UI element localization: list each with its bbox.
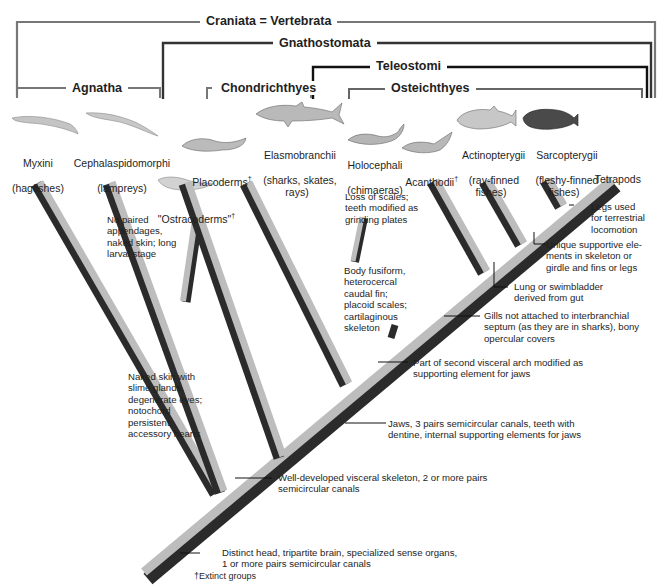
taxon-tetrapods: Tetrapods — [586, 161, 644, 185]
extinct-dagger: † — [248, 175, 252, 182]
clade-label-osteichthyes: Osteichthyes — [385, 81, 476, 95]
chimaera-icon — [348, 124, 404, 144]
character-craniata: Distinct head, tripartite brain, special… — [222, 547, 457, 570]
taxon-name: Sarcopterygii — [536, 149, 597, 161]
character-agnatha-lampreys: No paired appendages, naked skin; long l… — [107, 214, 176, 260]
taxon-name: Elasmobranchii — [264, 149, 336, 161]
character-hagfish: Naked skin with slime glands, degenerate… — [128, 371, 202, 439]
taxon-common-name: (sharks, skates, rays) — [263, 174, 337, 198]
taxon-placoderms: Placoderms† — [180, 161, 258, 188]
hagfish-icon — [12, 116, 78, 134]
taxon-name: Tetrapods — [595, 173, 641, 185]
taxon-common-name: (lampreys) — [97, 182, 147, 194]
taxon-myxini: Myxini (hagfishes) — [2, 145, 68, 194]
branch-elasmobranchii — [249, 182, 349, 383]
taxon-elasmobranchii: Elasmobranchii (sharks, skates, rays) — [257, 137, 337, 198]
character-chimaera: Loss of scales; teeth modified as grindi… — [345, 191, 418, 225]
character-teleostomi: Gills not attached to interbranchial sep… — [484, 310, 639, 344]
bracket-teleostomi — [313, 67, 647, 99]
character-osteichthyes: Lung or swimbladder derived from gut — [514, 281, 603, 304]
acanthodian-icon — [402, 132, 452, 153]
ray-finned-fish-icon — [457, 106, 516, 129]
lamprey-icon — [86, 113, 158, 136]
taxon-name: Holocephali — [347, 159, 402, 171]
taxon-cephalaspidomorphi: Cephalaspidomorphi (lampreys) — [66, 145, 172, 194]
clade-label-gnathostomata: Gnathostomata — [273, 36, 377, 50]
taxon-name: Placoderms — [192, 176, 247, 188]
placoderm-icon — [182, 138, 246, 151]
character-tetrapods: Legs used for terrestrial locomotion — [591, 201, 645, 235]
taxon-common-name: (ray-finned fishes) — [469, 174, 519, 198]
taxon-name: Actinopterygii — [462, 149, 525, 161]
character-acanthodii-node: Part of second visceral arch modified as… — [413, 357, 583, 380]
character-gnathostomata: Jaws, 3 pairs semicircular canals, teeth… — [388, 418, 581, 441]
character-chondrichthyes: Body fusiform, heterocercal caudal fin; … — [344, 265, 407, 333]
branch-elasmobranchii-shadow — [245, 184, 345, 385]
clade-label-teleostomi: Teleostomi — [370, 59, 447, 73]
clade-label-chondrichthyes: Chondrichthyes — [215, 81, 322, 95]
taxon-holocephali: Holocephali (chimaeras) — [340, 147, 404, 196]
shark-icon — [256, 102, 344, 127]
taxon-acanthodii: Acanthodii† — [399, 161, 459, 188]
footnote-extinct-groups: †Extinct groups — [194, 571, 256, 582]
clade-label-craniata: Craniata = Vertebrata — [200, 14, 337, 28]
character-vertebrata-node: Well-developed visceral skeleton, 2 or m… — [278, 472, 487, 495]
clade-label-agnatha: Agnatha — [66, 81, 128, 95]
character-sarcopterygii: Unique supportive ele- ments in skeleton… — [546, 239, 642, 273]
extinct-dagger: † — [231, 212, 235, 219]
taxon-name: Acanthodii — [405, 176, 454, 188]
taxon-name: Cephalaspidomorphi — [74, 157, 170, 169]
taxon-actinopterygii: Actinopterygii (ray-finned fishes) — [453, 137, 529, 198]
taxon-common-name: (hagfishes) — [12, 182, 64, 194]
coelacanth-icon — [523, 109, 578, 129]
taxon-name: Myxini — [23, 157, 53, 169]
